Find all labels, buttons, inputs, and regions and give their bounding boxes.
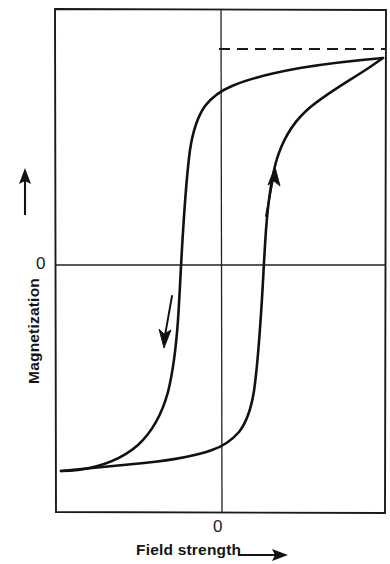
y-zero-axis-line	[221, 9, 222, 513]
up-arrow-icon	[266, 167, 280, 216]
hysteresis-plot-svg	[0, 0, 390, 564]
plot-frame-border	[55, 9, 386, 513]
y-axis-arrow-icon	[19, 168, 31, 215]
down-arrow-icon	[159, 296, 172, 348]
x-axis-zero-tick-label: 0	[213, 518, 222, 535]
hysteresis-figure: 0 0 Field strength Magnetization	[0, 0, 390, 564]
x-axis-arrow-icon	[238, 549, 288, 561]
x-axis-title: Field strength	[136, 541, 241, 559]
y-axis-title: Magnetization	[25, 251, 43, 411]
